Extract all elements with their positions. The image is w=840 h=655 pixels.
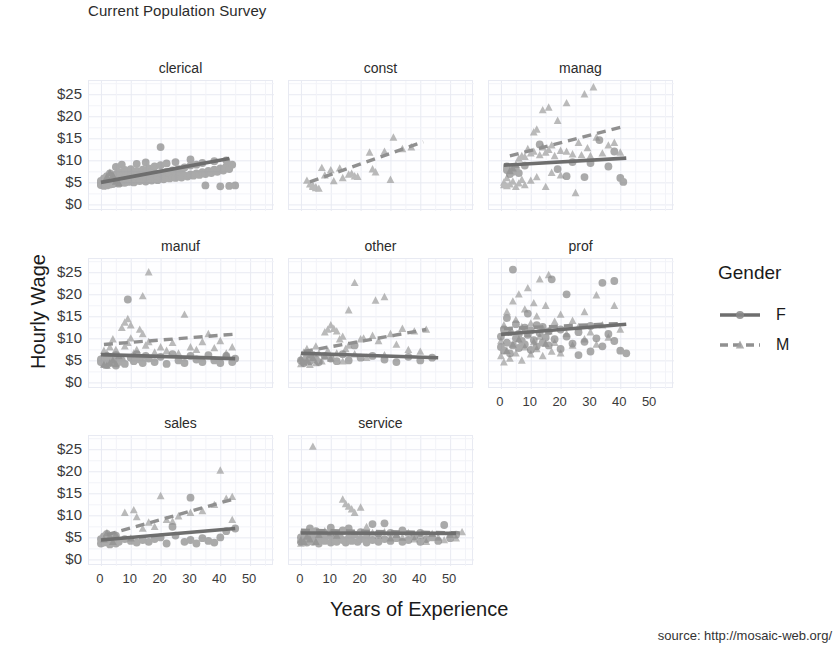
y-tick-label: $20 xyxy=(30,462,82,479)
facet-panel-const: const xyxy=(288,80,473,210)
y-tick-label: $15 xyxy=(30,129,82,146)
y-tick-label: $20 xyxy=(30,285,82,302)
y-tick-label: $5 xyxy=(30,528,82,545)
y-tick-label: $20 xyxy=(30,107,82,124)
facet-title-const: const xyxy=(288,60,473,76)
x-tick-label: 0 xyxy=(287,571,313,586)
facet-title-prof: prof xyxy=(488,238,673,254)
y-tick-label: $15 xyxy=(30,307,82,324)
y-tick-label: $10 xyxy=(30,151,82,168)
y-tick-label: $0 xyxy=(30,550,82,567)
x-tick-label: 40 xyxy=(406,571,432,586)
x-tick-label: 50 xyxy=(236,571,262,586)
y-tick-label: $25 xyxy=(30,85,82,102)
plot-area-service xyxy=(288,435,473,565)
x-tick-label: 40 xyxy=(606,394,632,409)
y-tick-label: $5 xyxy=(30,173,82,190)
x-axis-label: Years of Experience xyxy=(330,598,508,621)
x-tick-label: 40 xyxy=(206,571,232,586)
plot-area-const xyxy=(288,80,473,210)
legend: Gender FM xyxy=(718,262,789,360)
x-tick-label: 30 xyxy=(376,571,402,586)
legend-marker-circle-icon xyxy=(718,306,762,324)
x-tick-label: 0 xyxy=(87,571,113,586)
source-note: source: http://mosaic-web.org/ xyxy=(658,628,832,643)
y-tick-label: $10 xyxy=(30,329,82,346)
y-tick-label: $0 xyxy=(30,195,82,212)
facet-panel-service: service xyxy=(288,435,473,565)
y-tick-label: $15 xyxy=(30,484,82,501)
facet-panel-prof: prof xyxy=(488,258,673,388)
legend-marker-triangle-icon xyxy=(718,336,762,354)
facet-panel-clerical: clerical xyxy=(88,80,273,210)
legend-title: Gender xyxy=(718,262,789,284)
x-tick-label: 20 xyxy=(547,394,573,409)
x-tick-label: 50 xyxy=(436,571,462,586)
x-tick-label: 10 xyxy=(517,394,543,409)
legend-entry-M[interactable]: M xyxy=(718,330,789,360)
x-tick-label: 10 xyxy=(117,571,143,586)
plot-area-manag xyxy=(488,80,673,210)
x-tick-label: 10 xyxy=(317,571,343,586)
plot-area-sales xyxy=(88,435,273,565)
facet-title-service: service xyxy=(288,415,473,431)
chart-canvas: Current Population Survey Hourly Wage Ye… xyxy=(0,0,840,655)
legend-label: F xyxy=(776,306,786,324)
facet-panel-sales: sales xyxy=(88,435,273,565)
x-tick-label: 50 xyxy=(636,394,662,409)
plot-area-manuf xyxy=(88,258,273,388)
plot-area-prof xyxy=(488,258,673,388)
y-tick-label: $25 xyxy=(30,440,82,457)
plot-area-clerical xyxy=(88,80,273,210)
facet-title-sales: sales xyxy=(88,415,273,431)
facet-title-clerical: clerical xyxy=(88,60,273,76)
facet-panel-other: other xyxy=(288,258,473,388)
legend-label: M xyxy=(776,336,789,354)
y-tick-label: $10 xyxy=(30,506,82,523)
facet-title-manag: manag xyxy=(488,60,673,76)
legend-entry-F[interactable]: F xyxy=(718,300,789,330)
x-tick-label: 20 xyxy=(347,571,373,586)
y-tick-label: $5 xyxy=(30,351,82,368)
plot-area-other xyxy=(288,258,473,388)
facet-title-other: other xyxy=(288,238,473,254)
y-tick-label: $25 xyxy=(30,263,82,280)
x-tick-label: 30 xyxy=(576,394,602,409)
chart-subtitle: Current Population Survey xyxy=(88,2,266,19)
legend-entries: FM xyxy=(718,300,789,360)
facet-panel-manuf: manuf xyxy=(88,258,273,388)
x-tick-label: 30 xyxy=(176,571,202,586)
facet-panel-manag: manag xyxy=(488,80,673,210)
facet-title-manuf: manuf xyxy=(88,238,273,254)
y-tick-label: $0 xyxy=(30,373,82,390)
x-tick-label: 0 xyxy=(487,394,513,409)
x-tick-label: 20 xyxy=(147,571,173,586)
